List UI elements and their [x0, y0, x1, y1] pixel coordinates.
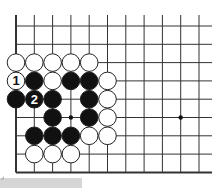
stone-circle	[99, 90, 117, 108]
stone-circle	[99, 109, 117, 127]
stone-circle	[44, 54, 62, 72]
white-stone	[7, 54, 25, 72]
white-stone	[44, 145, 62, 163]
stone-circle	[99, 72, 117, 90]
bar-corner-marker	[0, 176, 4, 180]
black-stone	[44, 127, 62, 145]
stone-circle	[26, 72, 44, 90]
stone-circle	[44, 109, 62, 127]
black-stone	[80, 109, 98, 127]
black-stone	[26, 72, 44, 90]
black-stone	[7, 90, 25, 108]
stone-circle	[80, 90, 98, 108]
stone-circle	[26, 145, 44, 163]
black-stone	[80, 72, 98, 90]
stone-circle	[80, 72, 98, 90]
black-stone	[62, 72, 80, 90]
white-stone	[62, 54, 80, 72]
star-point	[69, 115, 73, 119]
go-board: 12	[0, 0, 221, 188]
white-stone	[99, 90, 117, 108]
stone-circle	[7, 54, 25, 72]
white-stone	[26, 54, 44, 72]
stone-circle	[62, 127, 80, 145]
stone-circle	[44, 72, 62, 90]
black-stone	[62, 127, 80, 145]
stone-circle	[99, 127, 117, 145]
white-stone	[62, 145, 80, 163]
black-stone	[44, 109, 62, 127]
white-stone	[44, 72, 62, 90]
stone-circle	[80, 109, 98, 127]
stone-circle	[62, 145, 80, 163]
white-stone	[80, 127, 98, 145]
stone-circle	[26, 54, 44, 72]
white-stone	[99, 127, 117, 145]
white-stone	[99, 72, 117, 90]
stone-circle	[62, 72, 80, 90]
stone-circle	[44, 127, 62, 145]
stone-circle	[44, 90, 62, 108]
white-stone	[80, 54, 98, 72]
stone-circle	[26, 127, 44, 145]
stone-circle	[80, 127, 98, 145]
stone-circle	[62, 54, 80, 72]
black-stone: 2	[26, 90, 44, 108]
bottom-scroll-bar	[0, 178, 82, 188]
star-point	[179, 115, 183, 119]
white-stone	[44, 54, 62, 72]
black-stone	[80, 90, 98, 108]
stone-circle	[7, 90, 25, 108]
stone-circle	[44, 145, 62, 163]
white-stone	[26, 145, 44, 163]
move-number-label: 1	[12, 73, 19, 88]
white-stone	[99, 109, 117, 127]
stone-circle	[80, 54, 98, 72]
black-stone	[44, 90, 62, 108]
stones: 12	[7, 54, 116, 163]
black-stone	[26, 127, 44, 145]
move-number-label: 2	[31, 92, 38, 107]
white-stone: 1	[7, 72, 25, 90]
